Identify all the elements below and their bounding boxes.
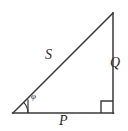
right-angle-marker xyxy=(101,101,113,113)
triangle-figure xyxy=(0,0,128,131)
hypotenuse-line xyxy=(13,13,113,113)
hypotenuse-label: S xyxy=(45,48,52,62)
right-triangle-diagram: S Q P φ xyxy=(0,0,128,131)
vertical-leg-label: Q xyxy=(110,56,120,70)
horizontal-leg-label: P xyxy=(59,114,68,128)
angle-label-phi: φ xyxy=(31,92,36,101)
angle-arc-icon xyxy=(24,102,28,113)
